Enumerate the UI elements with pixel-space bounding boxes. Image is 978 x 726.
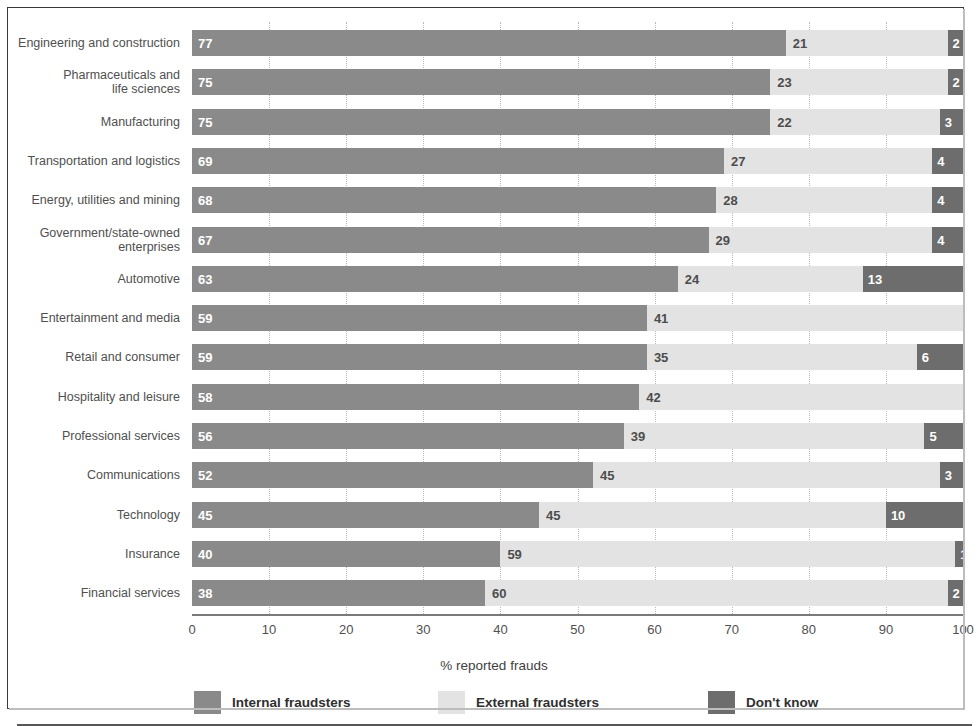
x-tick-label: 60 [647, 622, 661, 637]
bar-value-label: 40 [198, 547, 212, 560]
bar-segment-external: 35 [647, 344, 917, 370]
bar-segment-internal: 56 [192, 423, 624, 449]
bar-segment-internal: 59 [192, 344, 647, 370]
bar-row: 5842 [192, 384, 963, 410]
bar-value-label: 69 [198, 154, 212, 167]
bar-value-label: 58 [198, 390, 212, 403]
bar-value-label: 59 [507, 547, 521, 560]
bar-value-label: 45 [600, 469, 614, 482]
bar-segment-dk: 4 [932, 187, 963, 213]
legend-label: External fraudsters [476, 695, 599, 710]
bar-value-label: 41 [654, 312, 668, 325]
bar-row: 69274 [192, 148, 963, 174]
bar-segment-internal: 77 [192, 30, 786, 56]
legend-label: Don't know [746, 695, 818, 710]
chart-legend: Internal fraudstersExternal fraudstersDo… [8, 691, 978, 721]
x-axis-line [192, 614, 963, 616]
bar-segment-internal: 68 [192, 187, 716, 213]
category-label: Retail and consumer [8, 350, 180, 364]
bar-segment-dk: 2 [948, 69, 963, 95]
x-tick-label: 0 [188, 622, 195, 637]
bar-value-label: 1 [960, 547, 967, 560]
bar-value-label: 60 [492, 587, 506, 600]
legend-swatch-dk [708, 691, 735, 714]
bar-segment-internal: 75 [192, 69, 770, 95]
legend-swatch-external [438, 691, 465, 714]
bar-value-label: 75 [198, 76, 212, 89]
bar-value-label: 35 [654, 351, 668, 364]
bar-segment-dk: 4 [932, 148, 963, 174]
bar-row: 38602 [192, 580, 963, 606]
bar-segment-internal: 63 [192, 266, 678, 292]
bar-value-label: 4 [937, 154, 944, 167]
bar-value-label: 2 [953, 587, 960, 600]
bar-value-label: 59 [198, 351, 212, 364]
bar-segment-external: 42 [639, 384, 963, 410]
chart-frame: Engineering and constructionPharmaceutic… [7, 7, 964, 709]
bar-value-label: 39 [631, 430, 645, 443]
bar-segment-internal: 38 [192, 580, 485, 606]
bar-value-label: 2 [953, 76, 960, 89]
bar-segment-external: 23 [770, 69, 947, 95]
category-label: Technology [8, 508, 180, 522]
x-tick-label: 20 [339, 622, 353, 637]
x-tick-label: 30 [416, 622, 430, 637]
legend-item: Don't know [708, 691, 818, 714]
category-label: Financial services [8, 586, 180, 600]
category-label: Hospitality and leisure [8, 390, 180, 404]
bar-segment-dk: 2 [948, 30, 963, 56]
category-label: Manufacturing [8, 115, 180, 129]
legend-item: Internal fraudsters [194, 691, 351, 714]
bar-value-label: 4 [937, 233, 944, 246]
bar-value-label: 56 [198, 430, 212, 443]
x-axis: 0102030405060708090100 [192, 614, 963, 616]
bar-value-label: 75 [198, 115, 212, 128]
bar-row: 56395 [192, 423, 963, 449]
category-label: Automotive [8, 272, 180, 286]
bar-segment-internal: 75 [192, 109, 770, 135]
bar-value-label: 29 [716, 233, 730, 246]
bar-segment-dk: 3 [940, 109, 963, 135]
bar-value-label: 22 [777, 115, 791, 128]
x-tick-label: 10 [262, 622, 276, 637]
x-tick-label: 50 [570, 622, 584, 637]
category-label: Energy, utilities and mining [8, 193, 180, 207]
bar-row: 75223 [192, 109, 963, 135]
bar-segment-external: 29 [709, 227, 933, 253]
bar-segment-external: 41 [647, 305, 963, 331]
bar-value-label: 52 [198, 469, 212, 482]
bar-row: 68284 [192, 187, 963, 213]
bar-segment-external: 28 [716, 187, 932, 213]
bar-segment-dk: 10 [886, 502, 963, 528]
x-tick-label: 90 [879, 622, 893, 637]
bar-row: 5941 [192, 305, 963, 331]
bar-segment-external: 21 [786, 30, 948, 56]
legend-item: External fraudsters [438, 691, 599, 714]
bar-segment-external: 60 [485, 580, 948, 606]
bar-segment-internal: 58 [192, 384, 639, 410]
category-label: Insurance [8, 547, 180, 561]
legend-label: Internal fraudsters [232, 695, 351, 710]
bar-segment-dk: 2 [948, 580, 963, 606]
bar-segment-dk: 1 [955, 541, 963, 567]
category-label: Government/state-owned enterprises [8, 226, 180, 254]
bar-value-label: 45 [198, 508, 212, 521]
bar-segment-dk: 13 [863, 266, 963, 292]
bar-segment-dk: 4 [932, 227, 963, 253]
bar-value-label: 45 [546, 508, 560, 521]
bar-segment-external: 59 [500, 541, 955, 567]
bar-value-label: 24 [685, 272, 699, 285]
bar-row: 75232 [192, 69, 963, 95]
plot-area: 7721275232752236927468284672946324135941… [192, 22, 963, 614]
x-tick-label: 40 [493, 622, 507, 637]
bar-value-label: 59 [198, 312, 212, 325]
bar-row: 52453 [192, 462, 963, 488]
bar-value-label: 3 [945, 469, 952, 482]
bar-value-label: 27 [731, 154, 745, 167]
x-tick-label: 100 [952, 622, 974, 637]
bar-value-label: 63 [198, 272, 212, 285]
bar-segment-internal: 69 [192, 148, 724, 174]
bar-row: 632413 [192, 266, 963, 292]
bar-segment-internal: 52 [192, 462, 593, 488]
bar-value-label: 38 [198, 587, 212, 600]
